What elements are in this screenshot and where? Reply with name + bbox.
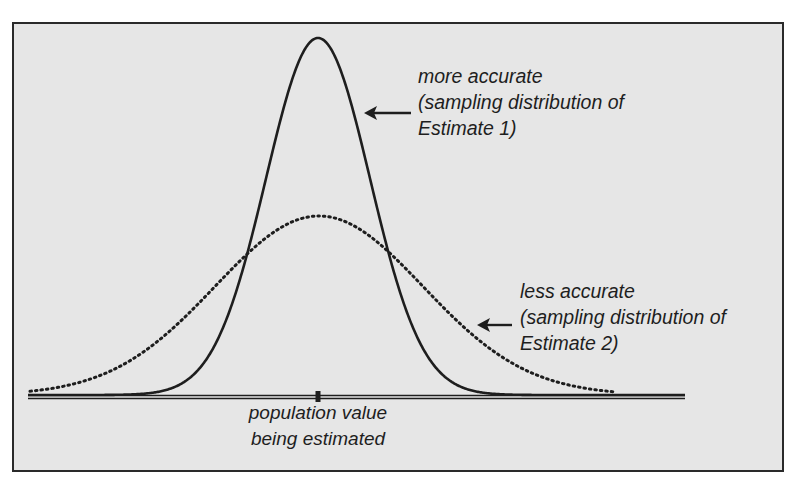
annotation-line: (sampling distribution of	[520, 304, 726, 330]
arrow-icon	[364, 106, 411, 120]
annotation-line: Estimate 1)	[418, 115, 624, 141]
annotation-line: being estimated	[218, 426, 418, 452]
x-axis-baseline	[28, 396, 685, 399]
annotation-line: more accurate	[418, 63, 624, 89]
estimate2-annotation: less accurate (sampling distribution of …	[520, 278, 726, 356]
arrow-icon	[477, 318, 512, 332]
estimate1-annotation: more accurate (sampling distribution of …	[418, 63, 624, 141]
annotation-line: population value	[218, 400, 418, 426]
annotation-line: (sampling distribution of	[418, 89, 624, 115]
population-value-label: population value being estimated	[218, 400, 418, 452]
annotation-line: less accurate	[520, 278, 726, 304]
annotation-line: Estimate 2)	[520, 330, 726, 356]
